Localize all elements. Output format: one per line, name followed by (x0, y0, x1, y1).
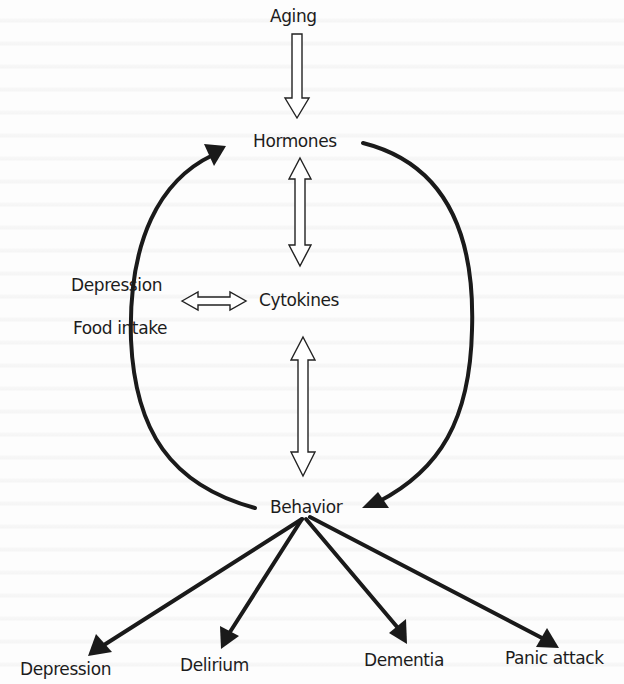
curved-arrow-right-arc (363, 143, 472, 502)
edge-behavior-to-delirium (220, 519, 302, 649)
edge-hormones-cytokines (289, 158, 311, 266)
arrow-line (306, 519, 398, 628)
edge-behavior-to-panic-attack (310, 517, 559, 648)
edge-behavior-to-depression (88, 519, 302, 656)
arrowhead (88, 634, 112, 656)
node-behavior: Behavior (270, 497, 342, 517)
diagram-canvas: Aging Hormones Cytokines Behavior Depres… (0, 0, 624, 684)
edge-cytokines-behavior (291, 337, 315, 476)
node-depression-input: Depression (71, 275, 162, 295)
edge-hormones-to-behavior (362, 143, 472, 508)
node-hormones: Hormones (253, 131, 337, 151)
edge-aging-to-hormones (285, 34, 309, 118)
arrow-line (310, 517, 542, 638)
node-aging: Aging (270, 6, 317, 26)
hollow-double-arrow-vertical (289, 158, 311, 266)
hollow-double-arrow-vertical (291, 337, 315, 476)
hollow-double-arrow-horizontal (182, 292, 246, 310)
arrowhead (204, 144, 226, 166)
node-food-intake: Food intake (73, 318, 167, 338)
arrow-line (230, 519, 302, 632)
arrow-line (104, 519, 302, 645)
hollow-arrow-down (285, 34, 309, 118)
outcome-depression: Depression (20, 659, 111, 679)
node-cytokines: Cytokines (259, 290, 339, 310)
edge-inputs-cytokines (182, 292, 246, 310)
edge-behavior-to-dementia (306, 519, 407, 644)
diagram-svg (0, 0, 624, 684)
outcome-delirium: Delirium (180, 655, 249, 675)
outcome-panic-attack: Panic attack (505, 648, 604, 668)
outcome-dementia: Dementia (364, 650, 444, 670)
